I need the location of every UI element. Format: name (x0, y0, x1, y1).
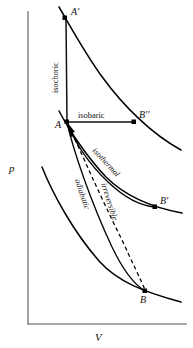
point-marker-B-double-prime (132, 120, 137, 125)
point-marker-B-prime (153, 205, 158, 210)
point-label-A: A (54, 119, 62, 130)
pressure-axis-label: p (8, 162, 15, 174)
isotherm-lower-curve (42, 167, 181, 302)
isothermal-label: isothermal (91, 146, 122, 179)
isochoric-label: isochoric (51, 62, 60, 93)
pv-diagram-figure: p V A' A B'' B' B isochoric isobaric iso… (0, 0, 193, 348)
point-label-A-prime: A' (70, 6, 80, 17)
point-marker-A-prime (63, 16, 68, 21)
point-marker-B (143, 289, 148, 294)
point-marker-A (65, 120, 70, 125)
volume-axis-label: V (95, 331, 103, 343)
point-label-B: B (140, 294, 146, 305)
isochoric-process-line (66, 19, 67, 122)
point-label-B-prime: B' (160, 195, 169, 206)
irreversible-label: irreversible (99, 182, 120, 222)
point-label-B-double-prime: B'' (139, 109, 150, 120)
adiabatic-label: adiabatic (73, 178, 91, 211)
isobaric-label: isobaric (78, 111, 105, 120)
isotherm-upper-curve (59, 7, 181, 150)
